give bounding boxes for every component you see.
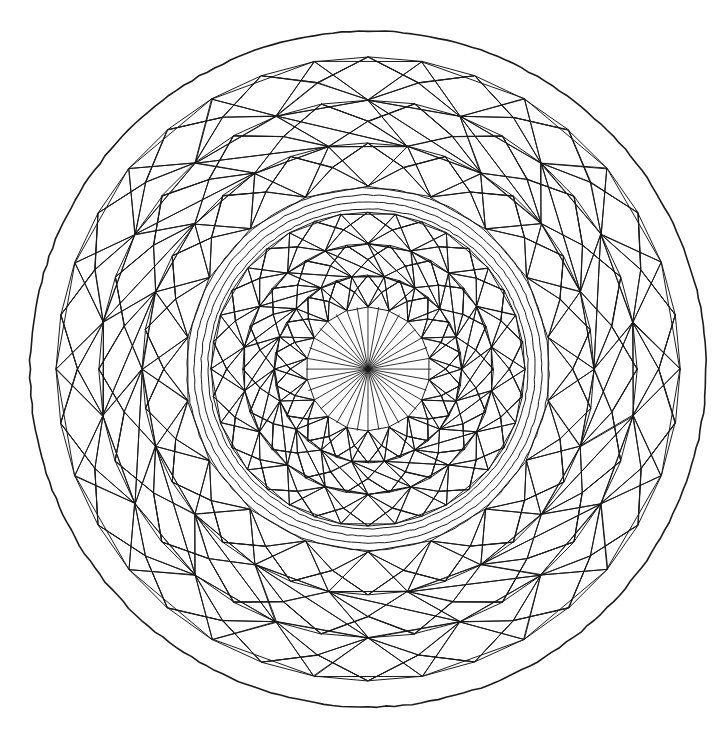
- mandala-canvas: [0, 0, 725, 735]
- star-center-dot: [366, 367, 370, 371]
- page-background: [0, 0, 725, 735]
- mandala-artwork: [0, 0, 725, 735]
